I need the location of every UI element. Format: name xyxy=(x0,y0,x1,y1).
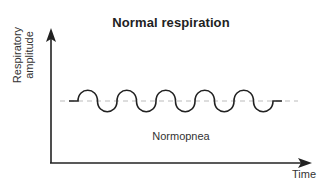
diagram-canvas xyxy=(0,0,322,196)
pattern-caption: Normopnea xyxy=(0,130,322,142)
x-axis-label: Time xyxy=(292,168,316,180)
